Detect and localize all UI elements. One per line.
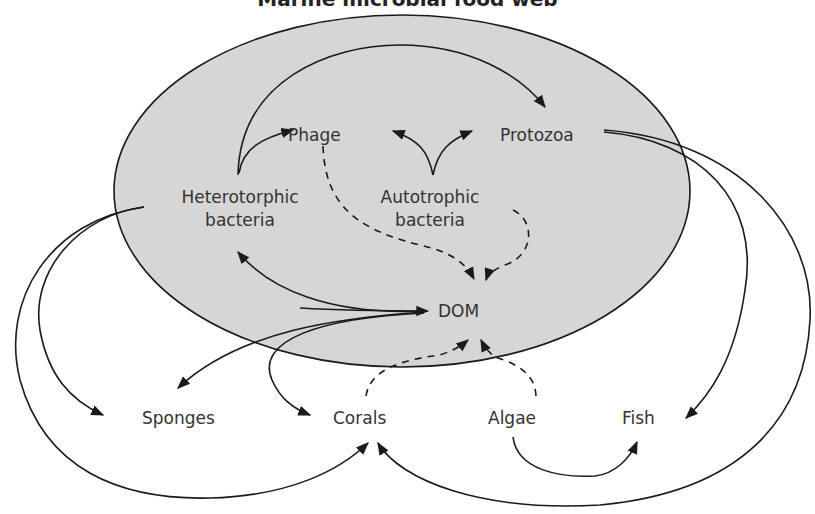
node-phage: Phage	[288, 124, 341, 147]
diagram-canvas	[0, 0, 815, 514]
node-heterotrophic-bacteria: Heterotorphic bacteria	[175, 186, 305, 232]
node-corals: Corals	[333, 407, 386, 430]
node-sponges: Sponges	[142, 407, 215, 430]
food-web-diagram: Marine microbial food web	[0, 0, 815, 514]
edge-algae-to-fish	[513, 437, 637, 476]
node-dom: DOM	[438, 300, 479, 323]
node-autotrophic-bacteria: Autotrophic bacteria	[370, 186, 490, 232]
node-autotrophic-line2: bacteria	[370, 209, 490, 232]
node-autotrophic-line1: Autotrophic	[370, 186, 490, 209]
node-algae: Algae	[488, 407, 536, 430]
node-fish: Fish	[622, 407, 655, 430]
node-protozoa: Protozoa	[500, 124, 574, 147]
node-heterotrophic-line2: bacteria	[175, 209, 305, 232]
node-heterotrophic-line1: Heterotorphic	[175, 186, 305, 209]
